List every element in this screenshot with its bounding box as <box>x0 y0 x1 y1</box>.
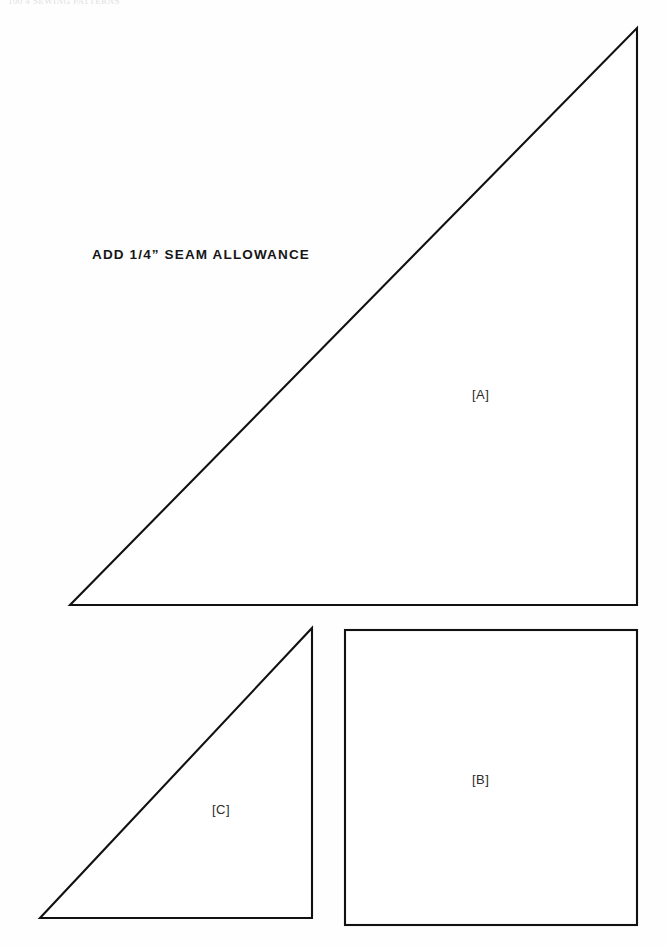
pattern-piece-c-outline <box>40 628 312 918</box>
pattern-piece-a-outline <box>70 28 637 605</box>
seam-allowance-note: ADD 1/4” SEAM ALLOWANCE <box>92 247 310 262</box>
pattern-piece-b-outline <box>345 630 637 925</box>
pattern-drawing-canvas <box>0 0 668 948</box>
pattern-piece-a-label: [A] <box>472 387 489 402</box>
pattern-piece-c-label: [C] <box>212 802 230 817</box>
pattern-piece-b-label: [B] <box>472 772 489 787</box>
pattern-page: 100 4 SEWING PATTERNS ADD 1/4” SEAM ALLO… <box>0 0 668 948</box>
pattern-svg <box>0 0 668 948</box>
